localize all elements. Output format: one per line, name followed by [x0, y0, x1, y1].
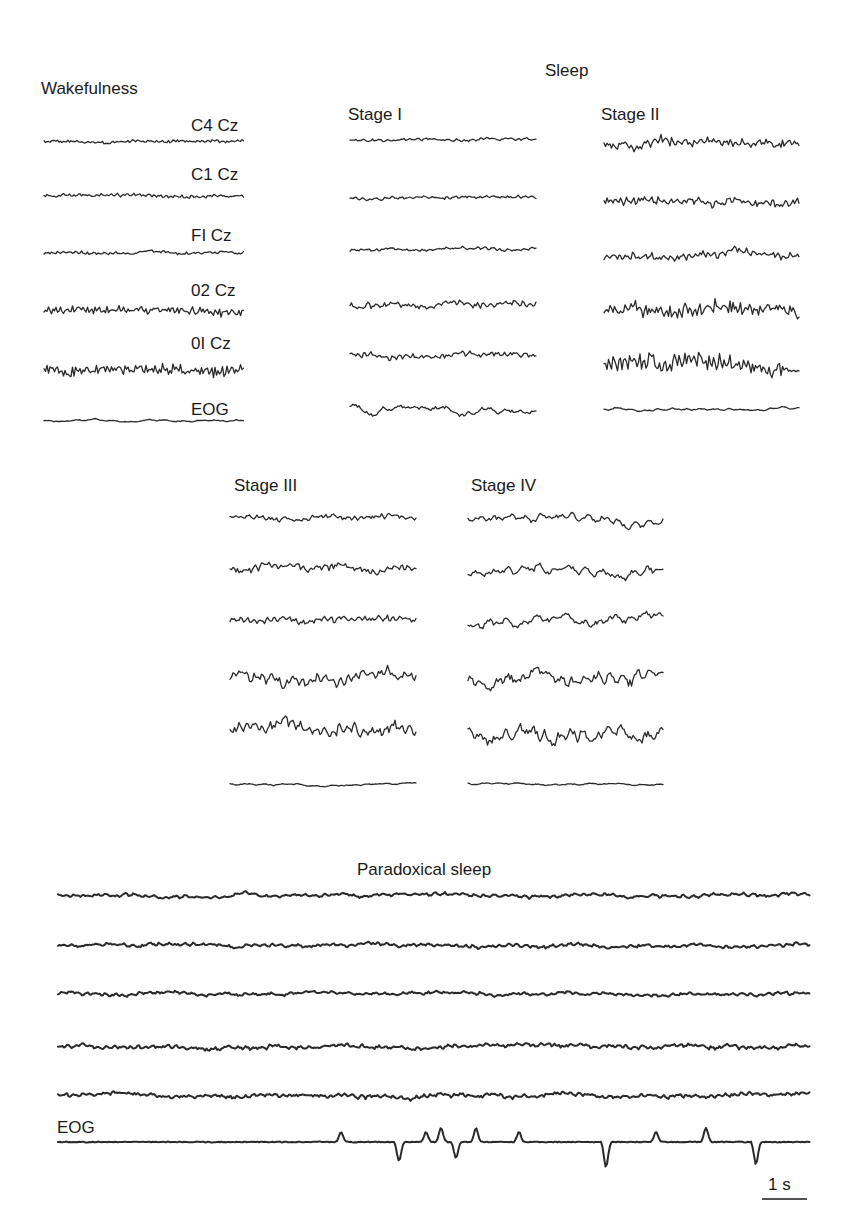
eeg-trace: [468, 724, 663, 746]
trace-layer: [44, 134, 810, 1166]
eeg-trace: [604, 246, 799, 261]
eeg-trace: [58, 891, 810, 899]
eeg-trace: [230, 665, 416, 688]
eeg-trace: [58, 1043, 810, 1051]
eeg-trace: [44, 250, 244, 255]
eeg-traces: [0, 0, 851, 1212]
eeg-trace: [350, 351, 536, 361]
eeg-trace: [350, 300, 536, 309]
eeg-trace: [350, 195, 536, 200]
eeg-trace: [350, 404, 536, 416]
eeg-trace: [58, 942, 810, 949]
eeg-trace: [44, 140, 244, 144]
eeg-trace: [230, 783, 416, 787]
eeg-trace: [468, 563, 663, 581]
eeg-trace: [468, 783, 663, 786]
eeg-trace: [350, 246, 536, 251]
eeg-trace: [350, 137, 536, 141]
eeg-trace: [58, 1128, 810, 1167]
eeg-trace: [604, 134, 799, 151]
eeg-trace: [230, 562, 416, 575]
eeg-trace: [44, 193, 244, 198]
eeg-trace: [230, 513, 416, 522]
eeg-trace: [604, 407, 799, 412]
eeg-trace: [468, 667, 663, 691]
eeg-trace: [58, 991, 810, 997]
eeg-trace: [604, 299, 799, 319]
eeg-trace: [468, 611, 663, 628]
eeg-trace: [44, 306, 244, 318]
eeg-trace: [604, 352, 799, 377]
eeg-trace: [230, 716, 416, 737]
eeg-trace: [468, 513, 663, 530]
eeg-trace: [44, 364, 244, 378]
eeg-trace: [58, 1091, 810, 1101]
eeg-trace: [604, 197, 799, 209]
eeg-trace: [44, 419, 244, 422]
eeg-trace: [230, 615, 416, 625]
